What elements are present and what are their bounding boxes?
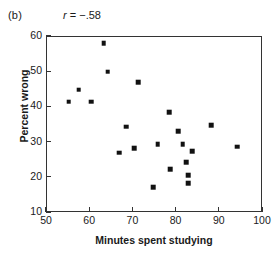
correlation-value: = −.58: [67, 9, 101, 21]
data-point: [124, 125, 129, 130]
x-tick-label: 80: [164, 215, 188, 226]
data-point: [186, 173, 191, 178]
data-point: [105, 70, 110, 75]
data-point: [176, 129, 181, 134]
x-tick-mark: [175, 207, 176, 212]
x-tick-label: 100: [250, 215, 274, 226]
x-tick-label: 50: [34, 215, 58, 226]
x-tick-mark: [89, 207, 90, 212]
data-point: [209, 123, 214, 128]
x-tick-mark: [261, 207, 262, 212]
y-tick-mark: [46, 71, 51, 72]
y-tick-mark: [46, 176, 51, 177]
data-point: [180, 142, 185, 147]
data-point: [190, 149, 195, 154]
scatter-plot-figure: (b) r = −.58 102030405060 5060708090100 …: [0, 0, 279, 256]
panel-label: (b): [8, 9, 22, 21]
data-point: [136, 80, 141, 85]
y-tick-mark: [46, 106, 51, 107]
y-tick-label: 20: [20, 171, 42, 182]
data-point: [132, 146, 137, 151]
y-axis-title: Percent wrong: [18, 51, 30, 161]
data-point: [168, 167, 173, 172]
data-point: [102, 41, 107, 46]
data-point: [235, 145, 240, 150]
y-tick-mark: [46, 211, 51, 212]
data-point: [156, 142, 161, 147]
data-point: [167, 110, 172, 115]
x-tick-label: 60: [77, 215, 101, 226]
x-tick-mark: [218, 207, 219, 212]
data-point: [184, 160, 189, 165]
data-point: [186, 181, 191, 186]
data-point: [117, 151, 122, 156]
x-tick-mark: [132, 207, 133, 212]
data-point: [151, 185, 156, 190]
y-tick-mark: [46, 35, 51, 36]
x-tick-mark: [45, 207, 46, 212]
x-axis-title: Minutes spent studying: [46, 234, 262, 246]
y-tick-label: 60: [20, 30, 42, 41]
y-tick-mark: [46, 141, 51, 142]
data-point: [89, 100, 94, 105]
data-point: [77, 88, 82, 93]
correlation-annotation: r = −.58: [63, 9, 101, 21]
x-tick-label: 70: [120, 215, 144, 226]
data-point: [67, 100, 72, 105]
x-tick-label: 90: [207, 215, 231, 226]
